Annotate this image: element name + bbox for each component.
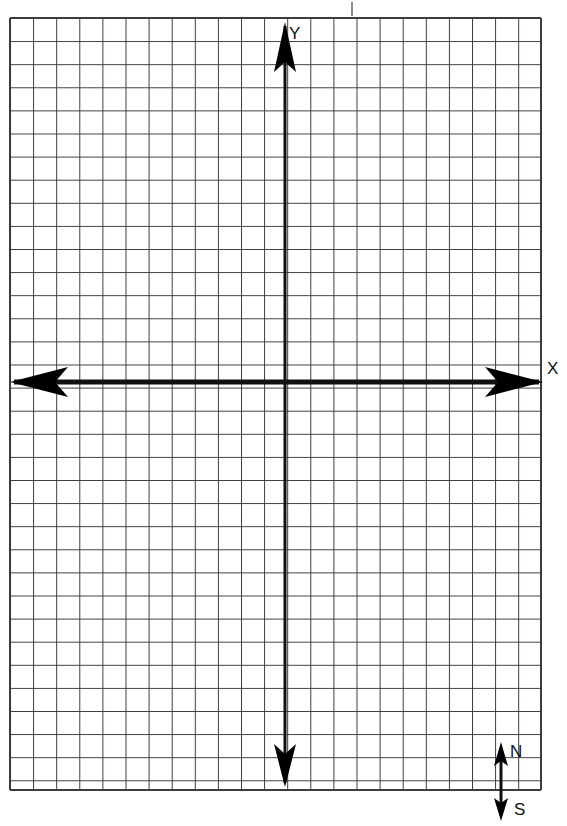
y-axis-label: Y	[289, 25, 300, 42]
coordinate-grid-figure	[0, 0, 567, 826]
compass-south-label: S	[514, 801, 525, 818]
graph-paper-page: Y X N S	[0, 0, 567, 826]
compass-north-label: N	[510, 743, 522, 760]
x-axis-label: X	[547, 360, 558, 377]
grid-lines	[10, 18, 541, 790]
